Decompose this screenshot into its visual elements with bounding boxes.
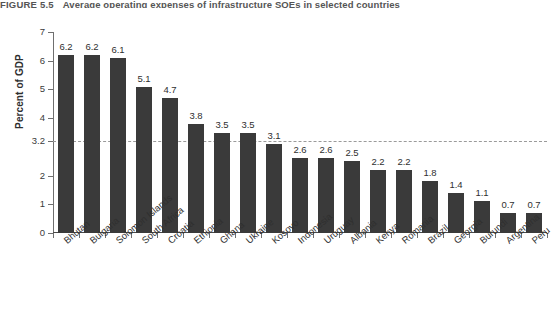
- bar-item[interactable]: 2.5: [344, 32, 359, 233]
- bar-value-label: 1.4: [449, 180, 462, 190]
- y-axis-tick-label: 7: [21, 27, 45, 37]
- bar-item[interactable]: 6.1: [110, 32, 125, 233]
- bar-item[interactable]: 2.6: [318, 32, 333, 233]
- bars-container: 6.26.26.15.14.73.83.53.53.12.62.62.52.22…: [53, 32, 547, 233]
- bar-value-label: 3.5: [215, 120, 228, 130]
- bar-item[interactable]: 2.2: [396, 32, 411, 233]
- bar-item[interactable]: 6.2: [84, 32, 99, 233]
- bar-item[interactable]: 3.5: [214, 32, 229, 233]
- bar-value-label: 6.1: [111, 45, 124, 55]
- bar-value-label: 6.2: [85, 42, 98, 52]
- bar-value-label: 0.7: [501, 200, 514, 210]
- y-axis-tick-label: 4: [21, 113, 45, 123]
- bar[interactable]: [240, 133, 255, 234]
- bar-value-label: 1.1: [475, 188, 488, 198]
- bar-value-label: 2.5: [345, 148, 358, 158]
- y-axis-tick-labels: 0123.24567: [21, 0, 45, 309]
- bar-value-label: 3.8: [189, 111, 202, 121]
- bar-item[interactable]: 2.6: [292, 32, 307, 233]
- bar[interactable]: [396, 170, 411, 233]
- bar-value-label: 3.5: [241, 120, 254, 130]
- bar-value-label: 6.2: [59, 42, 72, 52]
- bar[interactable]: [448, 193, 463, 233]
- bar-chart: Percent of GDP 0123.24567 6.26.26.15.14.…: [0, 0, 559, 309]
- bar-value-label: 2.6: [293, 145, 306, 155]
- bar-value-label: 3.1: [267, 131, 280, 141]
- bar-value-label: 4.7: [163, 85, 176, 95]
- bar-item[interactable]: 6.2: [58, 32, 73, 233]
- bar[interactable]: [58, 55, 73, 233]
- y-axis-tick-label: 6: [21, 56, 45, 66]
- bar-value-label: 5.1: [137, 74, 150, 84]
- y-axis-tick-label: 5: [21, 84, 45, 94]
- bar-item[interactable]: 5.1: [136, 32, 151, 233]
- bar-item[interactable]: 2.2: [370, 32, 385, 233]
- bar-item[interactable]: 1.8: [422, 32, 437, 233]
- bar-item[interactable]: 3.5: [240, 32, 255, 233]
- y-axis-tick-label: 3.2: [21, 136, 45, 146]
- bar-item[interactable]: 1.1: [474, 32, 489, 233]
- bar-item[interactable]: 0.7: [500, 32, 515, 233]
- bar-item[interactable]: 3.8: [188, 32, 203, 233]
- bar[interactable]: [188, 124, 203, 233]
- bar-value-label: 2.2: [397, 157, 410, 167]
- bar-value-label: 2.2: [371, 157, 384, 167]
- bar-item[interactable]: 1.4: [448, 32, 463, 233]
- y-axis-tick-label: 0: [21, 228, 45, 238]
- bar[interactable]: [110, 58, 125, 233]
- bar[interactable]: [84, 55, 99, 233]
- bar-value-label: 1.8: [423, 168, 436, 178]
- bar-value-label: 2.6: [319, 145, 332, 155]
- bar-value-label: 0.7: [527, 200, 540, 210]
- y-axis-tick-label: 1: [21, 199, 45, 209]
- bar-item[interactable]: 3.1: [266, 32, 281, 233]
- bar-item[interactable]: 0.7: [526, 32, 541, 233]
- x-axis-category-labels: BhutanBulgariaSolomon IslandsSouth Afric…: [53, 238, 559, 309]
- y-axis-tick-label: 2: [21, 171, 45, 181]
